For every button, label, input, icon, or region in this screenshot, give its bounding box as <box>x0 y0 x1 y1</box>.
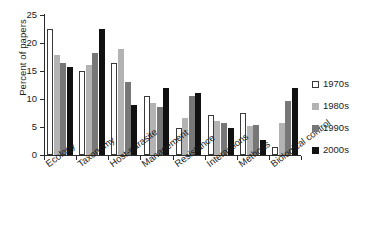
bar[interactable] <box>47 29 53 155</box>
black-square-swatch <box>312 147 319 154</box>
x-axis-tick <box>301 156 302 160</box>
bar[interactable] <box>79 71 85 155</box>
y-axis-tick-label: 5 <box>0 122 37 132</box>
legend-item[interactable]: 1980s <box>312 95 374 117</box>
y-axis-tick-label: 25 <box>0 10 37 20</box>
dark-gray-square-swatch <box>312 125 319 132</box>
legend-item-label: 1990s <box>323 123 349 133</box>
y-axis-tick-label: 15 <box>0 66 37 76</box>
legend-item[interactable]: 1990s <box>312 117 374 139</box>
legend-item-label: 1980s <box>323 101 349 111</box>
y-axis-tick-label: 20 <box>0 38 37 48</box>
bar[interactable] <box>144 96 150 155</box>
bar[interactable] <box>54 55 60 155</box>
bar[interactable] <box>118 49 124 155</box>
legend-item[interactable]: 1970s <box>312 73 374 95</box>
bar[interactable] <box>92 53 98 155</box>
white-square-swatch <box>312 81 319 88</box>
legend: 1970s1980s1990s2000s <box>312 73 374 161</box>
legend-item-label: 1970s <box>323 79 349 89</box>
light-gray-square-swatch <box>312 103 319 110</box>
legend-item[interactable]: 2000s <box>312 139 374 161</box>
bar[interactable] <box>60 63 66 155</box>
y-axis-tick-label: 0 <box>0 150 37 160</box>
legend-item-label: 2000s <box>323 145 349 155</box>
bar-chart: Percent of papers 0510152025 EcologyTaxo… <box>0 0 377 236</box>
bar[interactable] <box>86 65 92 155</box>
y-axis-tick-label: 10 <box>0 94 37 104</box>
bar[interactable] <box>99 29 105 155</box>
